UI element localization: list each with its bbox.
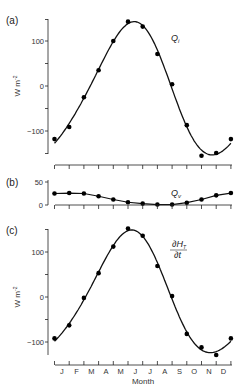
data-point	[67, 191, 72, 196]
panel-b-tick-0: 0	[39, 201, 43, 210]
panel-c-tick-m100: −100	[27, 338, 44, 347]
panel-a-tick-0: 0	[40, 82, 44, 91]
month-label: M	[118, 367, 124, 376]
panel-c-fit-curve	[55, 230, 231, 353]
data-point	[155, 52, 160, 57]
panel-c-points	[52, 226, 233, 357]
data-point	[82, 191, 87, 196]
data-point	[199, 153, 204, 158]
data-point	[140, 234, 145, 239]
data-point	[185, 332, 190, 337]
panel-a-points	[52, 19, 233, 158]
data-point	[199, 345, 204, 350]
panel-a-series-label: Qi	[171, 33, 180, 44]
svg-text:∂t: ∂t	[174, 250, 181, 260]
panel-a-tick-100: 100	[31, 37, 44, 46]
data-point	[126, 200, 131, 205]
data-point	[229, 336, 234, 341]
data-point	[111, 197, 116, 202]
chart-figure: (a) 100 0 −100 W m-2 Qi (b) 50 0 Qv (c) …	[0, 0, 245, 388]
data-point	[229, 191, 234, 196]
data-point	[67, 323, 72, 328]
month-label: M	[88, 367, 94, 376]
panel-c-x-ticks	[55, 361, 231, 365]
data-point	[96, 194, 101, 199]
data-point	[214, 353, 219, 358]
panel-a-label: (a)	[6, 15, 18, 26]
month-labels: JFMAMJJASOND	[56, 365, 227, 376]
panel-b-tick-50: 50	[35, 178, 43, 187]
month-label: F	[74, 367, 79, 376]
data-point	[82, 296, 87, 301]
data-point	[185, 123, 190, 128]
panel-c-y-ticks	[45, 230, 48, 343]
panel-a-y-label: W m-2	[12, 75, 22, 96]
data-point	[82, 95, 87, 100]
panel-c-tick-0: 0	[40, 293, 44, 302]
month-label: N	[206, 367, 211, 376]
panel-c-label: (c)	[6, 225, 18, 236]
panel-a-y-ticks	[45, 20, 48, 154]
month-label: O	[191, 367, 197, 376]
data-point	[126, 19, 131, 24]
panel-a-fit-curve	[55, 22, 231, 155]
data-point	[199, 197, 204, 202]
panel-b-label: (b)	[6, 177, 18, 188]
data-point	[185, 200, 190, 205]
data-point	[170, 294, 175, 299]
month-label: A	[162, 367, 167, 376]
panel-c-y-label: W m-2	[12, 286, 22, 307]
panel-a-tick-m100: −100	[27, 127, 44, 136]
month-label: J	[60, 367, 64, 376]
data-point	[126, 226, 131, 231]
panel-a: (a) 100 0 −100 W m-2 Qi	[6, 15, 233, 169]
panel-c: (c) 100 0 −100 W m-2 ∂HT ∂t JFMAMJJASOND…	[6, 225, 233, 386]
panel-c-tick-100: 100	[31, 248, 44, 257]
panel-b-series-label: Qv	[171, 188, 182, 199]
panel-b-x-ticks	[55, 205, 231, 209]
x-axis-title: Month	[132, 377, 154, 386]
month-label: D	[221, 367, 227, 376]
data-point	[170, 82, 175, 87]
data-point	[111, 39, 116, 44]
data-point	[96, 271, 101, 276]
data-point	[52, 137, 57, 142]
panel-a-x-ticks	[55, 165, 231, 169]
data-point	[67, 125, 72, 130]
data-point	[140, 24, 145, 29]
panel-b: (b) 50 0 Qv	[6, 177, 233, 210]
data-point	[155, 264, 160, 269]
data-point	[229, 137, 234, 142]
month-label: J	[133, 367, 137, 376]
data-point	[96, 68, 101, 73]
month-label: A	[103, 367, 108, 376]
panel-c-series-label: ∂HT ∂t	[170, 239, 187, 260]
data-point	[214, 151, 219, 156]
data-point	[214, 193, 219, 198]
data-point	[52, 336, 57, 341]
month-label: S	[177, 367, 182, 376]
data-point	[111, 244, 116, 249]
data-point	[52, 191, 57, 196]
svg-text:∂HT: ∂HT	[172, 239, 187, 250]
month-label: J	[148, 367, 152, 376]
